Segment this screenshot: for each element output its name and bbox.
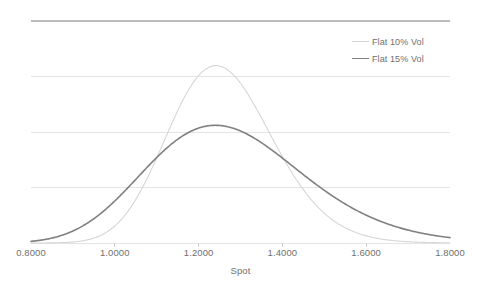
legend-line-swatch-icon <box>352 41 369 42</box>
x-tick-label-3: 1.4000 <box>268 247 298 258</box>
chart-legend: Flat 10% VolFlat 15% Vol <box>352 33 464 67</box>
x-axis-title: Spot <box>31 265 450 276</box>
legend-line-swatch-icon <box>352 58 369 59</box>
x-tick-label-2: 1.2000 <box>184 247 214 258</box>
x-tick-label-0: 0.8000 <box>16 247 46 258</box>
chart-container: Probability Distribution Function 0.8000… <box>0 0 479 288</box>
x-tick-label-5: 1.8000 <box>435 247 465 258</box>
legend-item-label: Flat 15% Vol <box>372 54 424 64</box>
legend-item-0[interactable]: Flat 10% Vol <box>352 33 464 50</box>
data-series-group <box>31 66 450 243</box>
series-line-1 <box>31 125 450 241</box>
x-tick-label-1: 1.0000 <box>100 247 130 258</box>
legend-item-label: Flat 10% Vol <box>372 37 424 47</box>
legend-item-1[interactable]: Flat 15% Vol <box>352 50 464 67</box>
x-axis-tick-labels: 0.80001.00001.20001.40001.60001.8000 <box>31 247 450 261</box>
series-line-0 <box>31 66 450 243</box>
x-tick-label-4: 1.6000 <box>351 247 381 258</box>
